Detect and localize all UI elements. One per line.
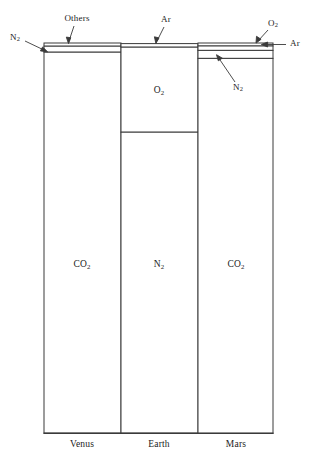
column-mars xyxy=(198,43,273,433)
chart-canvas xyxy=(0,0,314,466)
segment-label-venus-co2: CO2 xyxy=(73,260,90,270)
category-label-venus: Venus xyxy=(70,440,94,450)
callout-label-mars-ar: Ar xyxy=(290,39,300,48)
category-label-earth: Earth xyxy=(148,440,170,450)
stacked-column-chart: CO2 O2 N2 CO2 N2 Others Ar O2 Ar N2 Venu… xyxy=(0,0,314,466)
segment-mars-n2 xyxy=(198,50,273,58)
segment-label-earth-o2: O2 xyxy=(154,86,164,96)
category-label-mars: Mars xyxy=(226,440,246,450)
segment-earth-n2 xyxy=(121,132,198,433)
callout-label-venus-n2: N2 xyxy=(10,33,20,43)
segment-label-earth-n2: N2 xyxy=(154,260,164,270)
arrow-head-mars-o2 xyxy=(256,36,261,43)
segment-venus-co2 xyxy=(44,52,121,433)
column-earth xyxy=(121,44,198,434)
segment-venus-n2 xyxy=(44,46,121,52)
callout-label-venus-others: Others xyxy=(64,14,89,23)
segment-label-mars-co2: CO2 xyxy=(227,260,244,270)
segment-mars-ar xyxy=(198,46,273,50)
segment-mars-co2 xyxy=(198,58,273,433)
callout-label-earth-ar: Ar xyxy=(161,15,171,24)
column-venus xyxy=(44,43,121,433)
callout-label-mars-o2: O2 xyxy=(268,19,278,29)
arrow-head-earth-ar xyxy=(154,37,159,44)
callout-label-mars-n2: N2 xyxy=(233,83,243,93)
segment-earth-ar xyxy=(121,44,198,48)
